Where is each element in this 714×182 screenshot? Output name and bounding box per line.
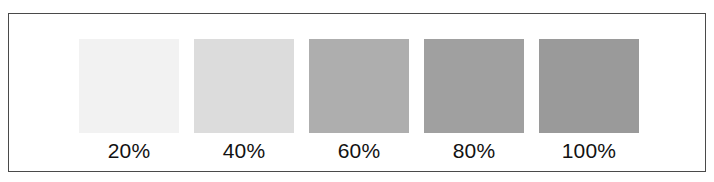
swatch-label: 20%	[108, 139, 151, 163]
swatch-cell: 60%	[309, 39, 409, 163]
swatch-cell: 40%	[194, 39, 294, 163]
swatch-label: 80%	[453, 139, 496, 163]
swatch-chip	[539, 39, 639, 133]
chart-frame: 20% 40% 60% 80% 100%	[8, 13, 706, 172]
swatch-cell: 80%	[424, 39, 524, 163]
swatch-label: 60%	[338, 139, 381, 163]
swatch-chip	[79, 39, 179, 133]
swatch-label: 100%	[562, 139, 617, 163]
swatch-chip	[194, 39, 294, 133]
swatch-cell: 20%	[79, 39, 179, 163]
swatch-label: 40%	[223, 139, 266, 163]
swatch-chip	[424, 39, 524, 133]
swatch-cell: 100%	[539, 39, 639, 163]
swatch-chip	[309, 39, 409, 133]
swatch-strip: 20% 40% 60% 80% 100%	[79, 39, 639, 159]
